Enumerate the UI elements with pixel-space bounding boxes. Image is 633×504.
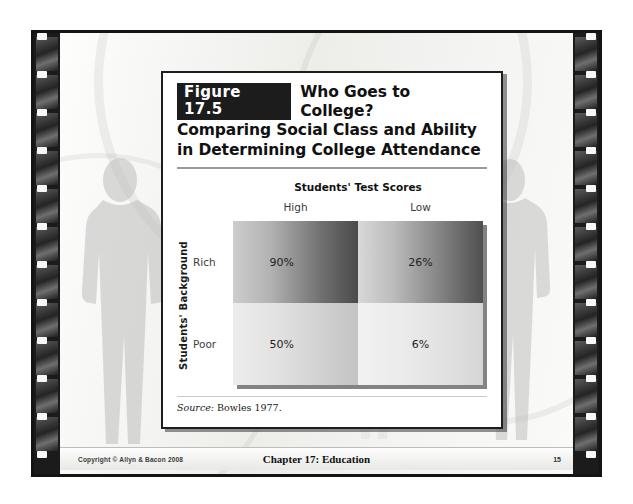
cell-value-poor-low: 6% — [412, 338, 429, 351]
title-divider — [177, 167, 487, 169]
cell-rich-high: 90% — [233, 221, 358, 303]
cell-poor-high: 50% — [233, 303, 358, 385]
figure-title-line-3: in Determining College Attendance — [177, 141, 487, 160]
slide-footer: Copyright © Allyn & Bacon 2008 Chapter 1… — [60, 447, 573, 470]
figure-number-badge: Figure 17.5 — [177, 83, 291, 120]
row-label-poor: Poor — [193, 303, 233, 385]
cell-poor-low: 6% — [358, 303, 483, 385]
slide-screenshot: Figure 17.5 Who Goes to College? Compari… — [0, 0, 633, 504]
source-divider — [177, 396, 487, 397]
cell-value-rich-low: 26% — [408, 256, 432, 269]
figure-title-line-2: Comparing Social Class and Ability — [177, 121, 487, 140]
figure-title-line-1: Who Goes to College? — [300, 83, 487, 120]
cell-rich-low: 26% — [358, 221, 483, 303]
matrix-chart: Students' Test Scores High Low Students'… — [177, 181, 487, 403]
figure-panel: Figure 17.5 Who Goes to College? Compari… — [161, 71, 503, 429]
column-group-title: Students' Test Scores — [233, 181, 483, 193]
figure-title-row: Figure 17.5 Who Goes to College? — [177, 83, 487, 120]
cell-value-poor-high: 50% — [270, 338, 294, 351]
filmstrip-border-left — [34, 33, 60, 474]
matrix-grid: 90% 26% 50% 6% — [233, 221, 483, 385]
presentation-slide: Figure 17.5 Who Goes to College? Compari… — [31, 30, 602, 477]
column-label-low: Low — [358, 201, 483, 213]
row-label-rich: Rich — [193, 221, 233, 303]
source-note: Source: Bowles 1977. — [177, 402, 282, 413]
source-prefix: Source: — [177, 402, 214, 413]
chapter-title: Chapter 17: Education — [60, 453, 573, 465]
column-label-high: High — [233, 201, 358, 213]
source-text: Bowles 1977. — [217, 402, 282, 413]
page-number: 15 — [553, 456, 561, 463]
row-group-title: Students' Background — [175, 225, 191, 385]
row-labels: Rich Poor — [193, 221, 233, 385]
row-group-title-text: Students' Background — [178, 241, 189, 370]
filmstrip-border-right — [573, 33, 599, 474]
column-labels: High Low — [233, 201, 483, 213]
person-silhouette — [68, 150, 172, 450]
cell-value-rich-high: 90% — [270, 256, 294, 269]
